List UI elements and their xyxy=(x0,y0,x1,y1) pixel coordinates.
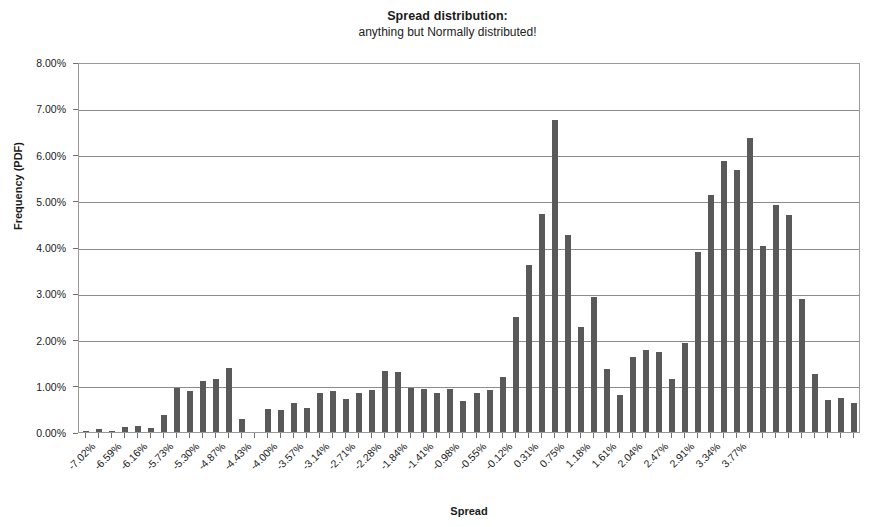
x-tick-mark xyxy=(736,433,737,438)
chart-title-block: Spread distribution: anything but Normal… xyxy=(0,8,895,40)
bar xyxy=(734,170,740,432)
x-tick-mark xyxy=(293,433,294,438)
x-axis-labels: -7.02%-6.59%-6.16%-5.73%-5.30%-4.87%-4.4… xyxy=(78,440,860,502)
bar xyxy=(552,120,558,432)
x-tick-mark xyxy=(254,433,255,438)
x-tick-mark xyxy=(111,433,112,438)
plot-area xyxy=(78,63,860,433)
x-tick-mark xyxy=(775,433,776,438)
bar xyxy=(356,393,362,432)
bar xyxy=(213,379,219,432)
x-tick-mark xyxy=(762,433,763,438)
x-tick-mark xyxy=(606,433,607,438)
bar xyxy=(460,401,466,432)
bar xyxy=(656,352,662,432)
y-tick-label: 1.00% xyxy=(36,381,66,393)
bar xyxy=(304,408,310,432)
x-tick-mark xyxy=(671,433,672,438)
x-tick-label: -6.16% xyxy=(117,440,149,472)
bar xyxy=(591,297,597,433)
chart-title: Spread distribution: xyxy=(0,8,895,24)
bar xyxy=(630,357,636,432)
x-tick-label: -0.12% xyxy=(482,440,514,472)
x-tick-mark xyxy=(593,433,594,438)
bar xyxy=(526,265,532,432)
x-tick-mark xyxy=(85,433,86,438)
x-tick-mark xyxy=(853,433,854,438)
x-tick-mark xyxy=(684,433,685,438)
x-tick-mark xyxy=(280,433,281,438)
y-tick-label: 6.00% xyxy=(36,150,66,162)
bar xyxy=(617,395,623,432)
x-tick-label: -3.57% xyxy=(274,440,306,472)
x-tick-mark xyxy=(827,433,828,438)
bar xyxy=(135,426,141,432)
x-tick-mark xyxy=(176,433,177,438)
bar xyxy=(812,374,818,432)
y-axis-title: Frequency (PDF) xyxy=(12,106,24,266)
bar xyxy=(474,393,480,432)
x-tick-mark xyxy=(476,433,477,438)
bar xyxy=(148,428,154,432)
bar xyxy=(434,393,440,432)
x-tick-mark xyxy=(710,433,711,438)
y-tick-label: 0.00% xyxy=(36,427,66,439)
bar xyxy=(317,393,323,432)
x-tick-mark xyxy=(801,433,802,438)
bar xyxy=(838,398,844,432)
x-tick-mark xyxy=(189,433,190,438)
bar xyxy=(643,350,649,432)
bar-series xyxy=(79,64,859,432)
x-tick-mark xyxy=(345,433,346,438)
x-tick-mark xyxy=(124,433,125,438)
x-tick-mark xyxy=(397,433,398,438)
bar xyxy=(604,369,610,432)
x-tick-label: -0.98% xyxy=(430,440,462,472)
x-tick-label: -5.73% xyxy=(143,440,175,472)
x-tick-label: 0.31% xyxy=(511,440,541,470)
x-tick-mark xyxy=(267,433,268,438)
bar xyxy=(760,246,766,432)
x-tick-mark xyxy=(658,433,659,438)
x-tick-mark xyxy=(580,433,581,438)
x-tick-mark xyxy=(788,433,789,438)
bar xyxy=(343,399,349,432)
x-tick-mark xyxy=(332,433,333,438)
x-tick-label: 3.34% xyxy=(693,440,723,470)
x-tick-mark xyxy=(410,433,411,438)
x-tick-mark xyxy=(645,433,646,438)
bar xyxy=(109,431,115,432)
x-tick-mark xyxy=(215,433,216,438)
bar xyxy=(187,391,193,432)
x-tick-mark xyxy=(502,433,503,438)
bar xyxy=(773,205,779,432)
bar xyxy=(161,415,167,432)
x-tick-mark xyxy=(697,433,698,438)
bar xyxy=(721,161,727,432)
bar xyxy=(83,431,89,432)
bar xyxy=(382,371,388,433)
x-tick-mark xyxy=(554,433,555,438)
x-tick-mark xyxy=(137,433,138,438)
y-tick-label: 4.00% xyxy=(36,242,66,254)
x-tick-mark xyxy=(98,433,99,438)
bar xyxy=(747,138,753,432)
x-tick-label: -1.41% xyxy=(404,440,436,472)
x-tick-mark xyxy=(150,433,151,438)
x-axis-ticks xyxy=(78,433,860,440)
bar xyxy=(421,389,427,432)
bar xyxy=(265,409,271,432)
x-tick-label: 1.18% xyxy=(563,440,593,470)
x-tick-mark xyxy=(384,433,385,438)
y-tick-label: 5.00% xyxy=(36,196,66,208)
bar xyxy=(851,403,857,432)
x-tick-mark xyxy=(489,433,490,438)
x-tick-mark xyxy=(202,433,203,438)
x-tick-mark xyxy=(749,433,750,438)
bar xyxy=(682,343,688,432)
x-tick-mark xyxy=(163,433,164,438)
x-tick-mark xyxy=(436,433,437,438)
bar xyxy=(578,327,584,432)
x-tick-label: 1.61% xyxy=(589,440,619,470)
x-tick-mark xyxy=(528,433,529,438)
